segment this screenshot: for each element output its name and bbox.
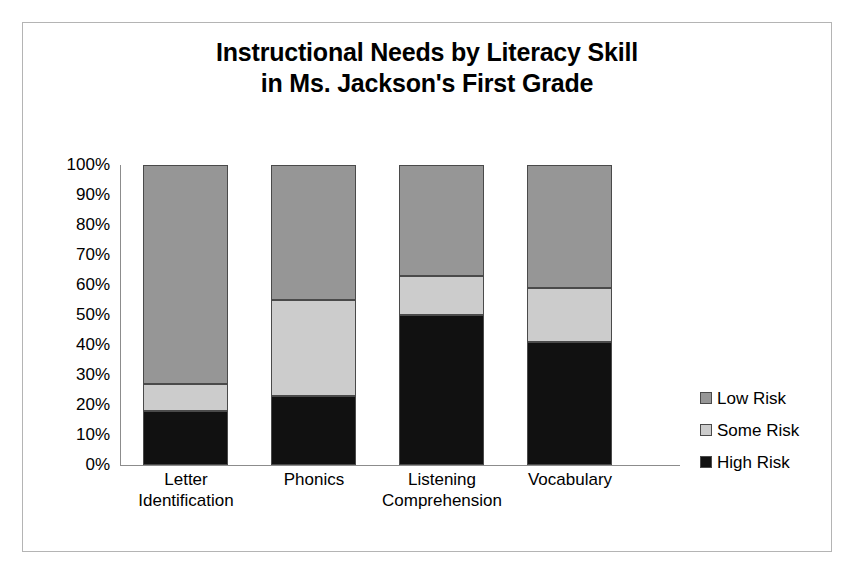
bar-segment-some-risk[interactable]: [143, 384, 228, 411]
bar-segment-some-risk[interactable]: [399, 276, 484, 315]
bar-segment-high-risk[interactable]: [399, 315, 484, 465]
bar-stack[interactable]: [527, 165, 612, 465]
y-tick-100: 100%: [46, 156, 110, 173]
bar-group-letter-identification[interactable]: Letter Identification: [143, 165, 228, 465]
legend-label-some-risk: Some Risk: [717, 422, 799, 439]
y-tick-80: 80%: [46, 216, 110, 233]
bar-segment-high-risk[interactable]: [271, 396, 356, 465]
bar-segment-some-risk[interactable]: [527, 288, 612, 342]
x-category-label-2-line-2: Comprehension: [367, 490, 517, 511]
bar-segment-high-risk[interactable]: [143, 411, 228, 465]
chart-title-line-2: in Ms. Jackson's First Grade: [23, 68, 831, 99]
plot-area: Letter Identification Phonics Listening …: [120, 165, 680, 465]
x-category-label-3-line-1: Vocabulary: [495, 469, 645, 490]
y-tick-0: 0%: [46, 456, 110, 473]
legend-swatch-high-risk-icon: [700, 456, 712, 468]
y-tick-10: 10%: [46, 426, 110, 443]
y-tick-20: 20%: [46, 396, 110, 413]
y-tick-40: 40%: [46, 336, 110, 353]
x-category-label-3: Vocabulary: [495, 469, 645, 490]
y-axis-tick-labels: 100% 90% 80% 70% 60% 50% 40% 30% 20% 10%…: [46, 165, 110, 465]
bar-stack[interactable]: [399, 165, 484, 465]
y-tick-60: 60%: [46, 276, 110, 293]
chart-title-line-1: Instructional Needs by Literacy Skill: [23, 37, 831, 68]
x-category-label-0-line-2: Identification: [111, 490, 261, 511]
legend-swatch-some-risk-icon: [700, 424, 712, 436]
y-tick-90: 90%: [46, 186, 110, 203]
x-axis-line: [120, 465, 680, 466]
bar-stack[interactable]: [271, 165, 356, 465]
bar-segment-some-risk[interactable]: [271, 300, 356, 396]
legend-label-low-risk: Low Risk: [717, 390, 786, 407]
bar-stack[interactable]: [143, 165, 228, 465]
legend-item-high-risk[interactable]: High Risk: [700, 446, 810, 478]
bar-group-listening-comprehension[interactable]: Listening Comprehension: [399, 165, 484, 465]
bar-group-phonics[interactable]: Phonics: [271, 165, 356, 465]
bar-segment-low-risk[interactable]: [399, 165, 484, 276]
bar-segment-low-risk[interactable]: [527, 165, 612, 288]
bar-group-vocabulary[interactable]: Vocabulary: [527, 165, 612, 465]
chart-legend: Low Risk Some Risk High Risk: [700, 382, 810, 478]
y-tick-70: 70%: [46, 246, 110, 263]
bar-segment-low-risk[interactable]: [143, 165, 228, 384]
bar-segment-high-risk[interactable]: [527, 342, 612, 465]
legend-item-some-risk[interactable]: Some Risk: [700, 414, 810, 446]
y-tick-50: 50%: [46, 306, 110, 323]
bar-segment-low-risk[interactable]: [271, 165, 356, 300]
legend-swatch-low-risk-icon: [700, 392, 712, 404]
chart-title: Instructional Needs by Literacy Skill in…: [23, 37, 831, 98]
y-tick-30: 30%: [46, 366, 110, 383]
legend-item-low-risk[interactable]: Low Risk: [700, 382, 810, 414]
legend-label-high-risk: High Risk: [717, 454, 790, 471]
y-axis-line: [120, 165, 121, 465]
